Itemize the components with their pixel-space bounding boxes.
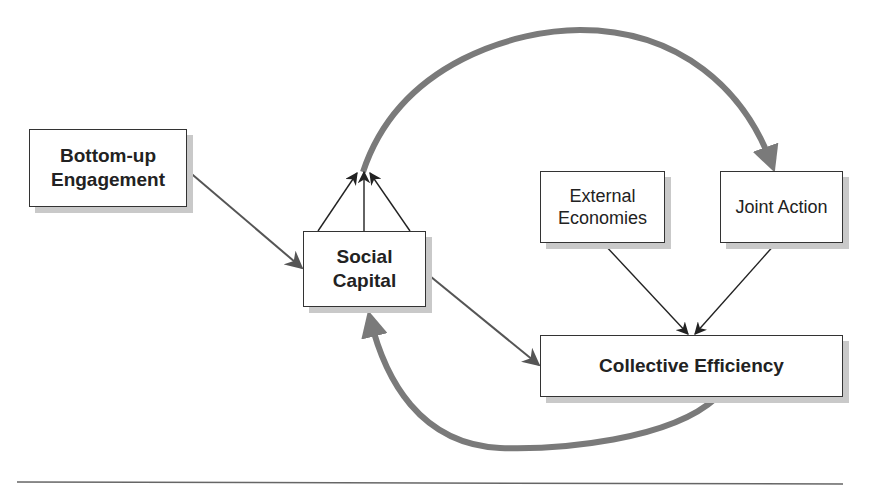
arrow-joint-to-collective	[695, 243, 776, 334]
diagram-connectors	[0, 0, 876, 490]
node-joint-action: Joint Action	[720, 171, 843, 243]
node-bottom-up-engagement: Bottom-up Engagement	[29, 129, 187, 207]
node-label-line1: Social	[333, 245, 396, 269]
node-label-line2: Economies	[558, 207, 647, 230]
node-label-line2: Capital	[333, 269, 396, 293]
node-label: Collective Efficiency	[599, 354, 784, 378]
node-label: Joint Action	[735, 196, 827, 219]
node-external-economies: External Economies	[540, 171, 665, 243]
node-social-capital: Social Capital	[303, 231, 426, 307]
bottom-divider	[17, 482, 843, 484]
arrow-sc-left	[318, 173, 357, 231]
node-label-line1: External	[558, 185, 647, 208]
arrow-social-to-collective	[425, 272, 539, 365]
node-label-line1: Bottom-up	[51, 144, 165, 168]
arrow-sc-right	[370, 173, 410, 231]
node-collective-efficiency: Collective Efficiency	[540, 335, 843, 397]
arc-social-to-joint	[363, 30, 772, 172]
arrow-bottomup-to-social	[187, 170, 302, 268]
arrow-external-to-collective	[603, 243, 688, 334]
node-label-line2: Engagement	[51, 168, 165, 192]
